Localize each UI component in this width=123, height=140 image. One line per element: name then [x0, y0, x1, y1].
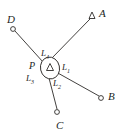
vertex-marker-B-circle-icon — [99, 96, 104, 101]
segment-label-L3-subscript: 3 — [31, 79, 34, 85]
segment-label-L3: L3 — [26, 74, 34, 85]
vertex-marker-A-triangle-icon — [89, 12, 95, 19]
vertex-label-D: D — [7, 14, 15, 25]
vertex-marker-C-circle-icon — [55, 110, 60, 115]
vertex-marker-D-circle-icon — [11, 27, 16, 32]
edge-line-L4-to-A — [52, 19, 90, 58]
segment-label-L4: L4 — [41, 49, 49, 60]
center-node-label-P: P — [29, 61, 35, 71]
segment-label-L2-subscript: 2 — [58, 84, 61, 90]
segment-label-L1-subscript: 1 — [67, 68, 70, 74]
segment-label-L2: L2 — [53, 79, 61, 90]
segment-label-L1: L1 — [62, 63, 70, 74]
segment-label-L4-subscript: 4 — [46, 54, 49, 60]
edge-line-L1-to-B — [56, 72, 99, 96]
vertex-label-A: A — [99, 8, 106, 19]
edge-line-L3-to-D — [15, 31, 43, 62]
vertex-label-B: B — [108, 91, 115, 102]
vertex-label-C: C — [56, 120, 63, 131]
geometry-figure: A B C D P L1 L2 L3 L4 — [0, 0, 123, 140]
